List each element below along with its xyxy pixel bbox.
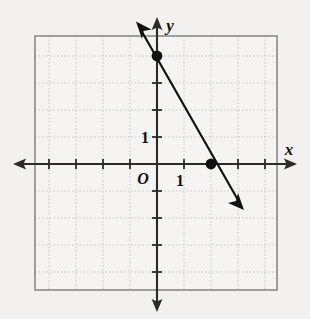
y-axis-label: y [164,16,174,35]
coordinate-plane-figure: O 1 1 y x [0,0,310,319]
x-axis-label: x [284,140,294,159]
y-tick-label-1: 1 [141,129,149,146]
origin-label: O [137,170,149,187]
point-x-intercept [206,159,217,170]
x-tick-label-1: 1 [176,172,184,189]
point-y-intercept [152,51,163,62]
graph-canvas: O 1 1 y x [0,0,310,319]
